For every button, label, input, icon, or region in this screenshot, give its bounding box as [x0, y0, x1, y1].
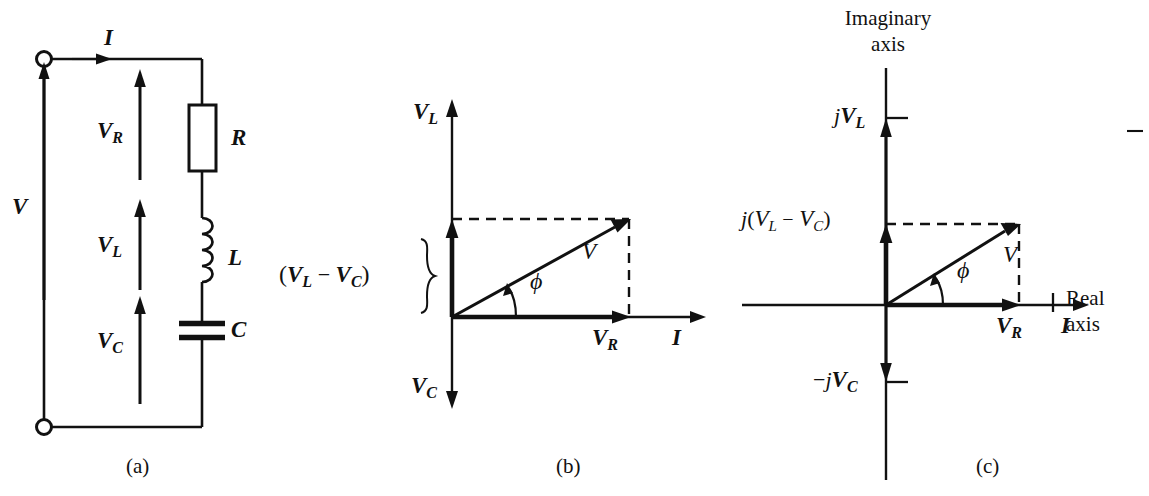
label-resistor-r: R [231, 126, 246, 149]
label-imaginary-axis: Imaginary axis [823, 8, 953, 55]
complex-vr-arrow [886, 299, 1021, 312]
label-vc-a: VC [97, 329, 123, 356]
phasor-axis-arrow-down [446, 391, 458, 409]
label-vr-a: VR [97, 119, 123, 146]
label-j-vl-minus-vc: j(VL − VC) [741, 207, 831, 234]
label-source-voltage: V [12, 195, 27, 218]
voltage-arrow-vc [134, 296, 146, 404]
phasor-reactive-arrow [446, 219, 459, 317]
label-real-axis: Real axis [1066, 288, 1138, 335]
label-vr-c: VR [996, 314, 1022, 341]
label-vc-axis-b: VC [411, 374, 437, 401]
label-current-i-a: I [104, 26, 113, 49]
label-vl-axis-b: VL [413, 100, 438, 127]
voltage-arrow-vl [134, 199, 146, 290]
real-axis-line1: Real [1066, 288, 1138, 309]
label-current-i-b: I [672, 326, 681, 349]
resistor-symbol [189, 105, 216, 171]
inductor-symbol [202, 218, 213, 282]
njvc-arrow [880, 305, 892, 382]
label-current-i-c: I [1061, 314, 1070, 337]
figure-graphics [0, 0, 1149, 496]
imaginary-axis-line2: axis [823, 34, 953, 55]
label-v-resultant-c: V [1003, 243, 1017, 266]
real-axis-line2: axis [1066, 314, 1138, 335]
label-capacitor-c: C [231, 318, 246, 341]
phasor-axis-arrow-right [690, 311, 706, 323]
complex-v-arrow [886, 223, 1021, 305]
imaginary-axis-line1: Imaginary [823, 8, 953, 29]
caption-b: (b) [556, 456, 581, 477]
voltage-arrow-vr [134, 69, 146, 180]
label-inductor-l: L [228, 246, 242, 269]
label-vr-b: VR [592, 326, 618, 353]
complex-reactive-arrow [880, 224, 893, 305]
panel-b-phasor [421, 99, 706, 409]
label-phi-b: ϕ [530, 269, 542, 293]
label-minus-jvc: −jVC [813, 368, 858, 395]
panel-a-circuit [37, 52, 226, 435]
label-v-resultant-b: V [582, 240, 596, 263]
phasor-brace [421, 239, 435, 313]
voltage-arrow-source [39, 62, 50, 300]
figure-root: V I VR VL VC R L C VL VC VR I V ϕ (VL − [0, 0, 1149, 496]
caption-c: (c) [976, 456, 999, 477]
label-phi-c: ϕ [957, 258, 969, 282]
label-vl-a: VL [97, 233, 122, 260]
terminal-bottom [37, 420, 52, 435]
caption-a: (a) [126, 456, 149, 477]
phasor-vr-arrow [452, 311, 631, 324]
phasor-axis-arrow-up [446, 99, 458, 117]
label-jvl: jVL [834, 104, 865, 131]
panel-c-complex-plane [742, 68, 1089, 480]
current-arrow [72, 54, 112, 65]
label-vl-minus-vc-b: (VL − VC) [279, 262, 370, 290]
